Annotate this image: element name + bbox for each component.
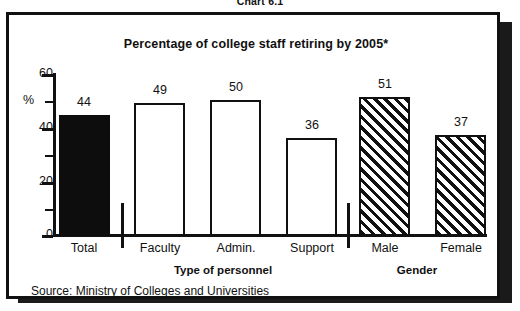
category-label-female: Female	[424, 241, 498, 255]
bar-value-admin: 50	[206, 80, 266, 94]
bar-value-faculty: 49	[130, 83, 190, 97]
group-label-gender: Gender	[357, 264, 477, 276]
bar-value-support: 36	[282, 118, 342, 132]
source-note: Source: Ministry of Colleges and Univers…	[31, 284, 269, 298]
category-label-faculty: Faculty	[123, 241, 197, 255]
bar-male[interactable]	[359, 97, 410, 236]
chart-frame: Percentage of college staff retiring by …	[6, 12, 500, 299]
bar-female[interactable]	[435, 135, 486, 236]
category-label-support: Support	[275, 241, 349, 255]
bar-faculty[interactable]	[134, 103, 185, 236]
chart-number-caption: Chart 6.1	[0, 0, 520, 7]
group-label-personnel: Type of personnel	[148, 264, 298, 276]
bar-total[interactable]	[59, 115, 110, 236]
chart-page: Chart 6.1 Percentage of college staff re…	[0, 0, 520, 311]
bar-value-female: 37	[431, 115, 491, 129]
bars-layer	[9, 15, 503, 236]
category-label-male: Male	[348, 241, 422, 255]
plot-area: % 60 40 20 0	[9, 15, 503, 302]
bar-admin[interactable]	[210, 100, 261, 236]
bar-support[interactable]	[286, 138, 337, 236]
bar-value-male: 51	[355, 77, 415, 91]
category-label-admin: Admin.	[199, 241, 273, 255]
bar-value-total: 44	[54, 95, 114, 109]
category-label-total: Total	[47, 241, 121, 255]
